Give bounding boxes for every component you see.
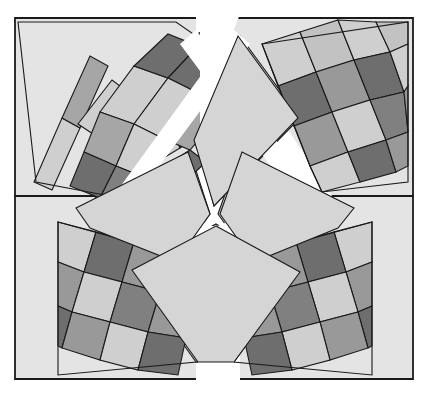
illusion-figure-svg [0, 0, 428, 397]
illusion-figure-container [0, 0, 428, 397]
